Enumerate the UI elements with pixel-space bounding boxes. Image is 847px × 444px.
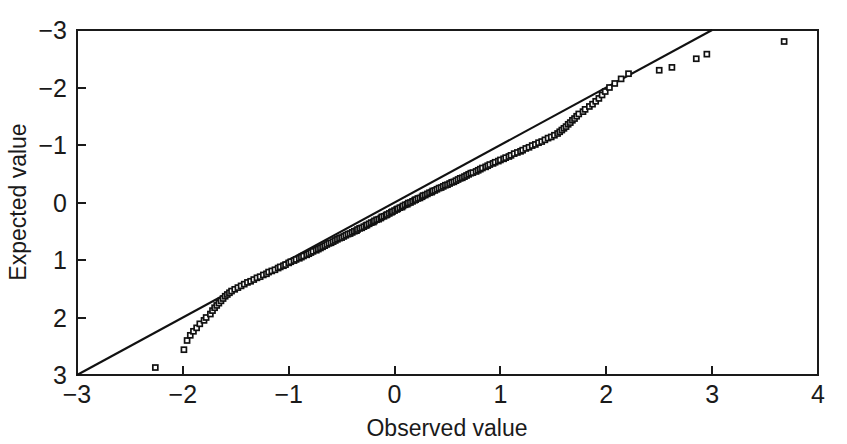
data-point <box>657 68 662 73</box>
y-tick-label-0: 3 <box>53 361 67 389</box>
data-point <box>669 65 674 70</box>
data-point <box>185 338 190 343</box>
x-tick-label-0: −3 <box>63 380 92 408</box>
y-axis-label: Expected value <box>5 123 31 280</box>
qq-plot-figure: −3−2−101234 3210−1−2−3 Observed value Ex… <box>0 0 847 444</box>
data-point <box>694 56 699 61</box>
data-point <box>181 347 186 352</box>
x-tick-label-1: −2 <box>169 380 198 408</box>
plot-canvas: −3−2−101234 3210−1−2−3 Observed value Ex… <box>0 0 847 444</box>
y-tick-label-3: 0 <box>53 189 67 217</box>
plot-background <box>0 0 847 444</box>
y-tick-label-4: −1 <box>38 131 67 159</box>
data-point <box>607 85 612 90</box>
data-point <box>782 39 787 44</box>
x-axis-label: Observed value <box>366 415 527 441</box>
data-point <box>153 365 158 370</box>
y-tick-label-5: −2 <box>38 74 67 102</box>
data-point <box>626 71 631 76</box>
y-tick-label-1: 2 <box>53 304 67 332</box>
x-tick-label-5: 2 <box>599 380 613 408</box>
x-tick-label-6: 3 <box>705 380 719 408</box>
y-tick-label-2: 1 <box>53 246 67 274</box>
x-tick-label-4: 1 <box>493 380 507 408</box>
x-tick-label-7: 4 <box>811 380 825 408</box>
x-tick-label-3: 0 <box>388 380 402 408</box>
data-point <box>619 76 624 81</box>
data-point <box>704 52 709 57</box>
data-point <box>612 81 617 86</box>
x-tick-label-2: −1 <box>274 380 303 408</box>
y-tick-label-6: −3 <box>38 16 67 44</box>
